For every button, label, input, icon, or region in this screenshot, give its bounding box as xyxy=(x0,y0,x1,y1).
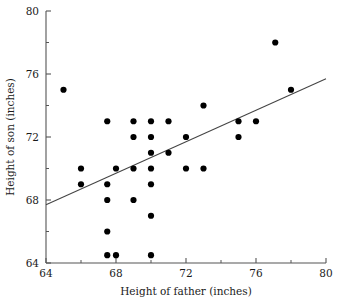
data-point xyxy=(200,102,206,108)
data-point xyxy=(148,134,154,140)
data-point xyxy=(272,39,278,45)
data-point xyxy=(104,197,110,203)
x-tick-label: 68 xyxy=(109,267,122,279)
data-point xyxy=(235,134,241,140)
x-tick-label: 64 xyxy=(39,267,53,279)
data-point xyxy=(104,181,110,187)
data-point xyxy=(130,134,136,140)
data-point xyxy=(113,165,119,171)
regression-line xyxy=(46,79,326,205)
data-point xyxy=(78,165,84,171)
data-point xyxy=(148,150,154,156)
data-point xyxy=(200,165,206,171)
data-point xyxy=(165,118,171,124)
data-point xyxy=(104,118,110,124)
x-tick-label: 72 xyxy=(179,267,192,279)
data-point xyxy=(148,252,154,258)
data-point xyxy=(235,118,241,124)
x-tick-label: 80 xyxy=(319,267,332,279)
data-point xyxy=(104,228,110,234)
x-axis-title: Height of father (inches) xyxy=(120,285,252,297)
data-point xyxy=(148,213,154,219)
y-axis-title: Height of son (inches) xyxy=(4,78,16,196)
data-points-group xyxy=(60,39,294,258)
data-point xyxy=(253,118,259,124)
data-point xyxy=(148,118,154,124)
data-point xyxy=(130,118,136,124)
data-point xyxy=(288,87,294,93)
x-tick-label: 76 xyxy=(249,267,263,279)
scatter-plot-figure: 64687276806468727680 Height of father (i… xyxy=(0,0,339,302)
tick-labels-group: 64687276806468727680 xyxy=(26,5,333,279)
data-point xyxy=(148,181,154,187)
data-point xyxy=(60,87,66,93)
data-point xyxy=(165,150,171,156)
y-tick-label: 72 xyxy=(26,131,39,143)
plot-canvas: 64687276806468727680 Height of father (i… xyxy=(0,0,339,302)
y-tick-label: 64 xyxy=(26,257,40,269)
regression-line-group xyxy=(46,79,326,205)
data-point xyxy=(130,197,136,203)
data-point xyxy=(148,165,154,171)
data-point xyxy=(130,165,136,171)
data-point xyxy=(104,252,110,258)
data-point xyxy=(113,252,119,258)
y-tick-label: 80 xyxy=(26,5,39,17)
data-point xyxy=(183,134,189,140)
data-point xyxy=(78,181,84,187)
y-tick-label: 68 xyxy=(26,194,39,206)
y-tick-label: 76 xyxy=(26,68,40,80)
data-point xyxy=(183,165,189,171)
